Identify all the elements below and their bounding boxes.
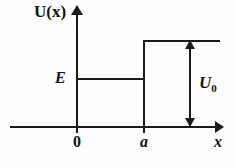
y-axis-label: U(x): [34, 3, 66, 20]
potential-step-wall: [143, 40, 145, 127]
barrier-height-label-main: U: [199, 73, 211, 92]
barrier-height-label-subscript: 0: [211, 82, 217, 94]
tick-mark-origin: [76, 126, 78, 133]
dimension-arrowhead-down-icon: [185, 118, 195, 127]
tick-label-origin: 0: [67, 133, 87, 151]
y-axis-line: [76, 14, 78, 127]
x-axis-arrowhead-icon: [215, 121, 224, 133]
x-axis-label: x: [214, 134, 222, 150]
barrier-height-dimension-line: [189, 41, 191, 126]
tick-mark-barrier-edge: [143, 126, 145, 133]
energy-level-line: [77, 78, 144, 80]
energy-level-label: E: [55, 70, 66, 86]
dimension-arrowhead-up-icon: [185, 40, 195, 49]
y-axis-arrowhead-icon: [71, 5, 83, 15]
potential-step-plateau: [143, 40, 220, 42]
barrier-height-label: U0: [199, 74, 217, 94]
potential-step-figure: U(x) x 0 a E U0: [0, 0, 236, 167]
tick-label-barrier-edge: a: [134, 133, 154, 151]
